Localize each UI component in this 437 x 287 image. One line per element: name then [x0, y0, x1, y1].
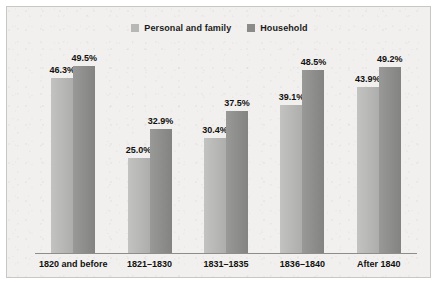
- bar-value-label: 32.9%: [148, 116, 174, 126]
- bar-value-label: 49.5%: [71, 53, 97, 63]
- bar-personal-and-family[interactable]: 25.0%: [128, 158, 150, 253]
- x-axis-label: After 1840: [357, 259, 401, 269]
- plot-area: 46.3%49.5%25.0%32.9%30.4%37.5%39.1%48.5%…: [35, 45, 417, 253]
- bar-household[interactable]: 49.5%: [73, 66, 95, 253]
- bar-personal-and-family[interactable]: 30.4%: [204, 138, 226, 253]
- bar-value-label: 43.9%: [355, 74, 381, 84]
- legend-entry-household[interactable]: Household: [247, 23, 307, 33]
- bar-personal-and-family[interactable]: 43.9%: [357, 87, 379, 253]
- x-axis-label: 1821–1830: [127, 259, 172, 269]
- bar-personal-and-family[interactable]: 46.3%: [51, 78, 73, 253]
- bar-group: 25.0%32.9%: [128, 45, 172, 253]
- bar-slot: 46.3%: [51, 45, 73, 253]
- legend-entry-personal-and-family[interactable]: Personal and family: [131, 23, 231, 33]
- bar-group: 43.9%49.2%: [357, 45, 401, 253]
- bar-slot: 48.5%: [302, 45, 324, 253]
- bar-slot: 39.1%: [280, 45, 302, 253]
- bar-household[interactable]: 49.2%: [379, 67, 401, 253]
- x-axis-line: [35, 253, 417, 254]
- bar-value-label: 37.5%: [224, 98, 250, 108]
- bar-value-label: 39.1%: [279, 92, 305, 102]
- bar-value-label: 49.2%: [377, 54, 403, 64]
- legend-label-household: Household: [260, 23, 307, 33]
- bar-household[interactable]: 32.9%: [150, 129, 172, 253]
- bar-value-label: 48.5%: [301, 57, 327, 67]
- x-axis-label: 1820 and before: [39, 259, 108, 269]
- bar-slot: 32.9%: [150, 45, 172, 253]
- legend-label-personal-and-family: Personal and family: [144, 23, 231, 33]
- bar-value-label: 46.3%: [49, 65, 75, 75]
- bar-value-label: 25.0%: [126, 145, 152, 155]
- legend-swatch-icon-personal-and-family: [131, 24, 139, 32]
- x-axis-label: 1831–1835: [203, 259, 248, 269]
- chart-panel: Personal and family Household 46.3%49.5%…: [6, 6, 431, 278]
- bar-slot: 25.0%: [128, 45, 150, 253]
- chart-container: Personal and family Household 46.3%49.5%…: [0, 0, 437, 287]
- bar-slot: 49.2%: [379, 45, 401, 253]
- bar-household[interactable]: 48.5%: [302, 70, 324, 253]
- bar-household[interactable]: 37.5%: [226, 111, 248, 253]
- bar-slot: 30.4%: [204, 45, 226, 253]
- bar-group: 39.1%48.5%: [280, 45, 324, 253]
- x-axis-label: 1836–1840: [280, 259, 325, 269]
- x-axis-category-labels: 1820 and before1821–18301831–18351836–18…: [35, 259, 417, 275]
- chart-legend: Personal and family Household: [7, 23, 432, 33]
- bar-slot: 49.5%: [73, 45, 95, 253]
- bar-personal-and-family[interactable]: 39.1%: [280, 105, 302, 253]
- bar-group: 30.4%37.5%: [204, 45, 248, 253]
- bar-slot: 37.5%: [226, 45, 248, 253]
- bar-value-label: 30.4%: [202, 125, 228, 135]
- bar-group: 46.3%49.5%: [51, 45, 95, 253]
- bar-slot: 43.9%: [357, 45, 379, 253]
- legend-swatch-icon-household: [247, 24, 255, 32]
